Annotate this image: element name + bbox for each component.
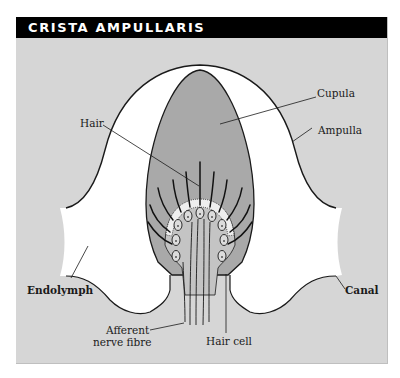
label-afferent-line1: Afferent: [105, 324, 150, 336]
label-ampulla: Ampulla: [317, 124, 362, 136]
crista-ampullaris-diagram: Cupula Ampulla Hair Endolymph Canal Affe…: [0, 0, 400, 378]
label-hair-cell: Hair cell: [206, 335, 253, 347]
label-afferent-line2: nerve fibre: [93, 336, 151, 348]
label-cupula: Cupula: [317, 87, 355, 99]
label-canal: Canal: [345, 284, 379, 296]
label-hair: Hair: [80, 117, 105, 129]
label-endolymph: Endolymph: [27, 284, 94, 296]
